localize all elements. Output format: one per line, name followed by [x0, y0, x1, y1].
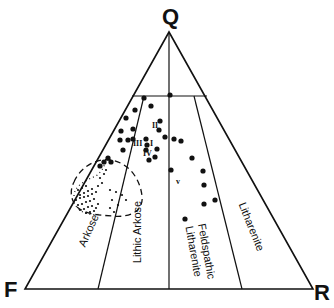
sample-point-small: [95, 207, 97, 209]
sample-point-small: [79, 209, 81, 211]
field-label-litharenite: Litharenite: [237, 200, 267, 252]
sample-point-small: [105, 169, 107, 171]
sample-point: [97, 163, 102, 168]
sample-point-small: [99, 177, 101, 179]
sample-point-small: [87, 206, 89, 208]
group-label-iv: IV: [143, 149, 152, 158]
sample-point-small: [77, 189, 79, 191]
sample-point-small: [83, 196, 85, 198]
sample-point-small: [97, 203, 99, 205]
ternary-diagram: Q F R Arkose Lithic Arkose Feldspathic L…: [0, 0, 334, 308]
sample-point-small: [77, 204, 79, 206]
sample-point-small: [79, 197, 81, 199]
sample-point: [168, 167, 173, 172]
group-label-v: v: [176, 177, 180, 186]
sample-point: [178, 138, 183, 143]
sample-point-small: [89, 200, 91, 202]
sample-point-small: [109, 189, 111, 191]
sample-point-small: [81, 203, 83, 205]
sample-point-small: [125, 199, 127, 201]
sample-point-small: [85, 185, 87, 187]
vertex-label-q: Q: [162, 4, 179, 29]
sample-points-small: [75, 169, 127, 214]
sample-point: [118, 128, 123, 133]
sample-point-small: [101, 182, 103, 184]
sample-point: [144, 142, 149, 147]
sample-point: [143, 136, 148, 141]
sample-point: [101, 159, 106, 164]
sample-point: [148, 103, 153, 108]
sample-point-small: [87, 190, 89, 192]
sample-point-small: [117, 204, 119, 206]
sample-point-small: [95, 191, 97, 193]
sample-point-small: [85, 212, 87, 214]
sample-point-small: [93, 198, 95, 200]
sample-point-small: [83, 208, 85, 210]
field-label-lithic-arkose: Lithic Arkose: [131, 201, 143, 263]
sample-point: [132, 107, 137, 112]
sample-point-small: [97, 185, 99, 187]
sample-point-small: [81, 187, 83, 189]
group-label-iii: III: [133, 139, 142, 148]
sample-point: [182, 216, 187, 221]
sample-point-small: [91, 205, 93, 207]
sample-point-small: [109, 207, 111, 209]
sample-point-small: [115, 191, 117, 193]
sample-point: [152, 154, 157, 159]
sample-point: [201, 201, 206, 206]
sample-point: [146, 157, 151, 162]
sample-point: [171, 136, 176, 141]
sample-point: [120, 147, 125, 152]
sample-point-small: [75, 199, 77, 201]
sample-point-small: [113, 211, 115, 213]
sample-point-small: [91, 188, 93, 190]
vertex-label-f: F: [4, 277, 17, 302]
sample-point: [200, 168, 205, 173]
group-label-i: I: [150, 139, 153, 148]
sample-point: [130, 126, 135, 131]
sample-point: [154, 146, 159, 151]
sample-point: [167, 92, 172, 97]
sample-point: [123, 115, 128, 120]
sample-point: [189, 155, 194, 160]
sample-point-small: [111, 199, 113, 201]
sample-point-small: [87, 195, 89, 197]
field-label-arkose: Arkose: [76, 212, 101, 248]
sample-point: [117, 137, 122, 142]
sample-point-small: [103, 173, 105, 175]
sample-point: [201, 182, 206, 187]
sample-point: [141, 95, 146, 100]
sample-point-small: [83, 192, 85, 194]
sample-point: [125, 137, 130, 142]
sample-point: [108, 159, 113, 164]
sample-point-small: [121, 194, 123, 196]
sample-points: [97, 92, 217, 221]
sample-point-small: [85, 201, 87, 203]
sample-point-small: [93, 210, 95, 212]
sample-point: [162, 134, 167, 139]
vertex-label-r: R: [314, 280, 330, 305]
group-label-ii: II: [152, 121, 158, 130]
sample-point: [212, 197, 217, 202]
sample-point-small: [91, 193, 93, 195]
sample-point-small: [79, 194, 81, 196]
